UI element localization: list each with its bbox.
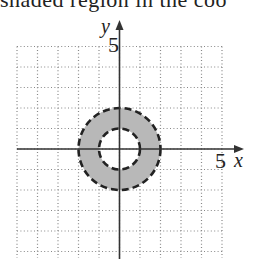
coordinate-plane: y 5 5 x: [0, 0, 256, 259]
x-tick-label: 5: [215, 148, 226, 173]
y-tick-label: 5: [108, 32, 119, 57]
x-axis-label: x: [233, 149, 243, 171]
y-axis-arrow-icon: [116, 20, 124, 30]
axes: [17, 20, 244, 259]
